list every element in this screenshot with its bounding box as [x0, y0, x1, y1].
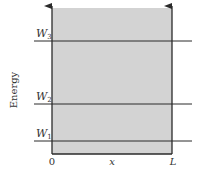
y-axis-label: Energy — [8, 71, 19, 108]
x-tick-label-zero: 0 — [49, 156, 55, 167]
potential-well-region — [52, 8, 172, 154]
energy-diagram: W3 W2 W1 Energy 0 x L — [0, 0, 203, 175]
x-axis-label: x — [109, 156, 115, 167]
level-label-w3: W3 — [36, 27, 52, 41]
x-tick-label-l: L — [169, 156, 177, 167]
level-label-w1: W1 — [36, 127, 52, 141]
level-label-w2: W2 — [36, 90, 52, 104]
